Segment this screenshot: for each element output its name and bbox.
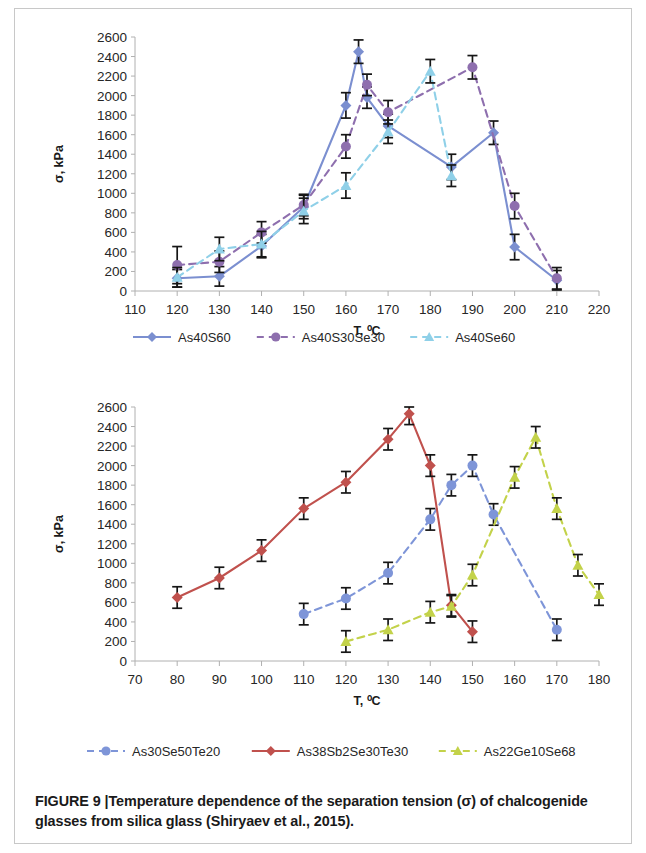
data-point-marker	[530, 432, 541, 442]
y-tick-label: 200	[104, 264, 127, 279]
chart-legend: As40S60As40S30Se30As40Se60	[133, 330, 515, 345]
y-tick-label: 800	[104, 206, 127, 221]
x-tick-label: 160	[503, 672, 526, 687]
y-tick-label: 2600	[97, 400, 127, 415]
series-as40se60	[172, 59, 457, 287]
series-as40s30se30	[172, 56, 562, 289]
data-point-marker	[551, 503, 562, 513]
data-point-marker	[353, 46, 364, 57]
data-point-marker	[340, 100, 351, 111]
y-tick-label: 600	[104, 225, 127, 240]
x-tick-label: 200	[503, 302, 526, 317]
data-point-marker	[425, 514, 435, 524]
y-tick-label: 2000	[97, 459, 127, 474]
x-tick-label: 110	[124, 302, 146, 317]
data-point-marker	[552, 625, 562, 635]
x-tick-label: 190	[461, 302, 484, 317]
y-tick-label: 2400	[97, 50, 127, 65]
x-tick-label: 70	[127, 672, 142, 687]
x-tick-label: 100	[250, 672, 273, 687]
y-tick-label: 2600	[97, 30, 127, 45]
x-tick-label: 120	[166, 302, 189, 317]
data-point-marker	[299, 609, 309, 619]
data-point-marker	[425, 66, 436, 76]
x-tick-label: 140	[419, 672, 442, 687]
x-tick-label: 110	[293, 672, 315, 687]
y-tick-label: 1000	[97, 186, 127, 201]
data-point-marker	[552, 273, 562, 283]
legend-label[interactable]: As40S30Se30	[302, 330, 385, 345]
data-point-marker	[446, 170, 457, 180]
caption-label: FIGURE 9	[35, 793, 101, 809]
chart1-plot-area: 0200400600800100012001400160018002000220…	[23, 15, 623, 345]
legend-label[interactable]: As38Sb2Se30Te30	[297, 744, 408, 759]
y-axis-title: σ, kPa	[52, 144, 66, 183]
x-tick-label: 80	[170, 672, 185, 687]
y-tick-label: 0	[119, 284, 127, 299]
x-tick-label: 180	[419, 302, 442, 317]
legend-label[interactable]: As30Se50Te20	[132, 744, 220, 759]
x-tick-label: 90	[212, 672, 227, 687]
x-tick-label: 150	[461, 672, 484, 687]
x-tick-label: 160	[335, 302, 358, 317]
y-tick-label: 1400	[97, 517, 127, 532]
legend-marker	[147, 332, 157, 342]
chart-panel-bottom: 0200400600800100012001400160018002000220…	[23, 379, 623, 769]
legend-label[interactable]: As22Ge10Se68	[484, 744, 576, 759]
chart2-svg: 0200400600800100012001400160018002000220…	[23, 379, 623, 769]
y-tick-label: 800	[104, 576, 127, 591]
figure-frame: 0200400600800100012001400160018002000220…	[14, 8, 632, 844]
y-tick-label: 400	[104, 615, 127, 630]
legend-marker	[266, 746, 276, 756]
y-tick-label: 2200	[97, 439, 127, 454]
x-tick-label: 210	[546, 302, 569, 317]
y-tick-label: 200	[104, 634, 127, 649]
x-tick-label: 130	[377, 672, 400, 687]
y-axis-title: σ, kPa	[52, 514, 66, 553]
data-point-marker	[467, 62, 477, 72]
y-tick-label: 1800	[97, 478, 127, 493]
data-point-marker	[383, 107, 393, 117]
y-tick-label: 1000	[97, 556, 127, 571]
data-point-marker	[383, 568, 393, 578]
figure-caption: FIGURE 9 |Temperature dependence of the …	[35, 791, 605, 832]
legend-marker	[271, 332, 280, 341]
legend-marker	[101, 746, 110, 755]
y-tick-label: 1200	[97, 167, 127, 182]
x-tick-label: 220	[588, 302, 611, 317]
chart-legend: As30Se50Te20As38Sb2Se30Te30As22Ge10Se68	[87, 744, 576, 759]
y-tick-label: 400	[104, 245, 127, 260]
data-point-marker	[467, 570, 478, 580]
y-tick-label: 1600	[97, 128, 127, 143]
y-tick-label: 600	[104, 595, 127, 610]
data-point-marker	[214, 572, 225, 583]
data-point-marker	[172, 592, 183, 603]
x-tick-label: 170	[546, 672, 569, 687]
y-tick-label: 1200	[97, 537, 127, 552]
chart1-svg: 0200400600800100012001400160018002000220…	[23, 15, 623, 345]
x-tick-label: 120	[335, 672, 358, 687]
y-tick-label: 2000	[97, 89, 127, 104]
x-tick-label: 170	[377, 302, 400, 317]
x-tick-label: 180	[588, 672, 611, 687]
x-tick-label: 150	[292, 302, 315, 317]
data-point-marker	[341, 141, 351, 151]
y-tick-label: 1400	[97, 147, 127, 162]
chart-panel-top: 0200400600800100012001400160018002000220…	[23, 15, 623, 345]
data-point-marker	[362, 80, 372, 90]
data-point-marker	[425, 460, 436, 471]
data-point-marker	[467, 461, 477, 471]
data-point-marker	[446, 480, 456, 490]
caption-text: Temperature dependence of the separation…	[35, 793, 588, 829]
data-point-marker	[341, 593, 351, 603]
series-as38sb2se30te30	[172, 407, 478, 642]
legend-label[interactable]: As40Se60	[455, 330, 515, 345]
data-point-marker	[594, 589, 605, 599]
y-tick-label: 1800	[97, 108, 127, 123]
chart2-plot-area: 0200400600800100012001400160018002000220…	[23, 379, 623, 769]
x-tick-label: 140	[250, 302, 273, 317]
data-point-marker	[510, 201, 520, 211]
data-point-marker	[340, 180, 351, 190]
data-point-marker	[425, 607, 436, 617]
legend-label[interactable]: As40S60	[178, 330, 231, 345]
